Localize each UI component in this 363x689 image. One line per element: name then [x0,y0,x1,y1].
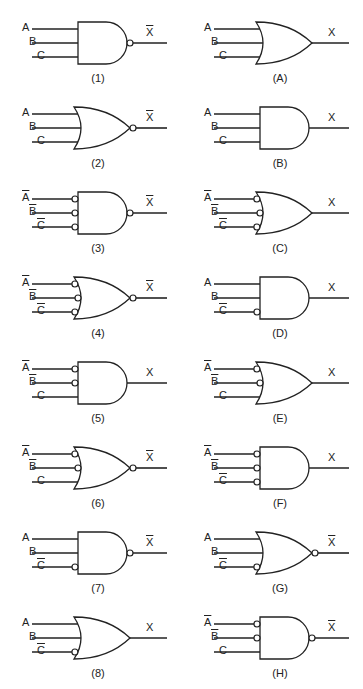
input-label-b: B [211,376,218,387]
output-bubble-icon [309,635,315,641]
input-label-c: C [37,560,45,571]
inversion-bubble-icon [72,196,78,202]
input-label-b: B [29,461,36,472]
gate-caption: (G) [250,582,310,594]
output-bubble-icon [127,40,133,46]
input-label-a: A [204,107,211,118]
gate-body [256,362,312,404]
gate-caption: (H) [250,667,310,679]
input-label-b: B [211,546,218,557]
input-label-a: A [204,447,211,458]
inversion-bubble-icon [72,649,78,655]
input-label-b: B [211,291,218,302]
output-label: X [146,112,153,123]
input-label-b: B [29,121,36,132]
input-label-c: C [37,135,45,146]
gate-body [260,107,309,149]
gate-h-and: ABCX(H) [182,601,362,686]
gate-caption: (B) [250,157,310,169]
output-label: X [146,27,153,38]
input-label-c: C [219,220,227,231]
gate-body [260,617,309,659]
output-bubble-icon [127,210,133,216]
gate-e-or: ABCX(E) [182,346,362,431]
output-label: X [328,282,335,293]
input-label-a: A [204,277,211,288]
input-label-b: B [29,631,36,642]
input-label-a: A [204,362,211,373]
inversion-bubble-icon [75,295,81,301]
inversion-bubble-icon [72,210,78,216]
output-label: X [146,197,153,208]
inversion-bubble-icon [257,380,263,386]
gate-body [256,22,312,64]
input-label-c: C [219,645,227,656]
gate-1-and: ABCX(1) [0,6,180,91]
input-label-c: C [219,50,227,61]
gate-caption: (C) [250,242,310,254]
input-label-a: A [22,617,29,628]
gate-caption: (4) [68,327,128,339]
gate-3-and: ABCX(3) [0,176,180,261]
gate-body [74,277,130,319]
input-label-b: B [29,291,36,302]
gate-caption: (3) [68,242,128,254]
gate-body [74,107,130,149]
output-label: X [328,367,335,378]
gate-caption: (F) [250,497,310,509]
gate-caption: (A) [250,72,310,84]
inversion-bubble-icon [72,224,78,230]
input-label-a: A [22,107,29,118]
output-label: X [328,537,335,548]
gate-caption: (2) [68,157,128,169]
gate-f-and: ABCX(F) [182,431,362,516]
inversion-bubble-icon [254,224,260,230]
inversion-bubble-icon [254,635,260,641]
input-label-a: A [204,532,211,543]
gate-caption: (D) [250,327,310,339]
input-label-c: C [37,475,45,486]
gate-caption: (7) [68,582,128,594]
gate-body [256,532,312,574]
input-label-b: B [29,376,36,387]
gate-body [78,192,127,234]
inversion-bubble-icon [254,564,260,570]
gate-body [78,22,127,64]
output-bubble-icon [127,550,133,556]
input-label-c: C [219,560,227,571]
gate-diagram-sheet: ABCX(1)ABCX(A)ABCX(2)ABCX(B)ABCX(3)ABCX(… [0,0,363,689]
inversion-bubble-icon [72,366,78,372]
input-label-a: A [22,277,29,288]
input-label-c: C [37,50,45,61]
gate-caption: (5) [68,412,128,424]
gate-body [78,532,127,574]
output-bubble-icon [130,465,136,471]
gate-caption: (8) [68,667,128,679]
gate-7-and: ABCX(7) [0,516,180,601]
output-label: X [328,27,335,38]
input-label-c: C [219,135,227,146]
gate-body [260,447,309,489]
inversion-bubble-icon [254,479,260,485]
gate-6-or: ABCX(6) [0,431,180,516]
output-label: X [146,622,153,633]
input-label-c: C [219,390,227,401]
inversion-bubble-icon [254,621,260,627]
gate-body [260,277,309,319]
output-label: X [146,537,153,548]
inversion-bubble-icon [254,196,260,202]
gate-caption: (E) [250,412,310,424]
input-label-c: C [219,305,227,316]
input-label-a: A [22,192,29,203]
output-label: X [146,367,153,378]
gate-4-or: ABCX(4) [0,261,180,346]
input-label-b: B [211,631,218,642]
output-label: X [328,622,335,633]
gate-a-or: ABCX(A) [182,6,362,91]
input-label-c: C [219,475,227,486]
gate-c-or: ABCX(C) [182,176,362,261]
input-label-a: A [204,617,211,628]
input-label-c: C [37,220,45,231]
output-bubble-icon [130,295,136,301]
inversion-bubble-icon [72,309,78,315]
